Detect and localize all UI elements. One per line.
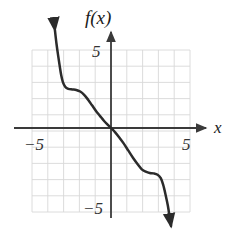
graph-canvas (0, 0, 236, 242)
x-axis-label: x (214, 119, 222, 136)
function-label: f(x) (85, 8, 111, 27)
x-tick-label-positive-five: 5 (182, 136, 191, 153)
function-graph-figure: f(x) x −5 5 5 −5 (0, 0, 236, 242)
y-tick-label-positive-five: 5 (92, 43, 101, 60)
y-tick-label-negative-five: −5 (83, 200, 103, 217)
x-tick-label-negative-five: −5 (24, 136, 44, 153)
